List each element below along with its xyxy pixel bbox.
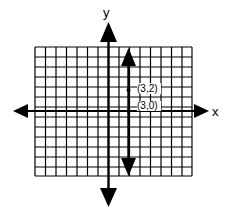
y-axis — [100, 22, 117, 207]
y-axis-label: y — [103, 5, 110, 20]
x-axis-left-arrow-icon — [13, 104, 28, 118]
x-axis-label: x — [212, 104, 219, 119]
x-axis — [13, 104, 209, 118]
point-3-0 — [127, 109, 131, 113]
y-axis-up-arrow-icon — [100, 22, 117, 42]
point-label-3-2: (3,2) — [137, 83, 158, 94]
coordinate-plane: (3,2) (3,0) x y — [0, 0, 232, 219]
y-axis-down-arrow-icon — [100, 188, 117, 207]
x-axis-right-arrow-icon — [194, 104, 209, 118]
point-label-3-0: (3,0) — [137, 100, 158, 111]
point-3-2 — [127, 88, 131, 92]
